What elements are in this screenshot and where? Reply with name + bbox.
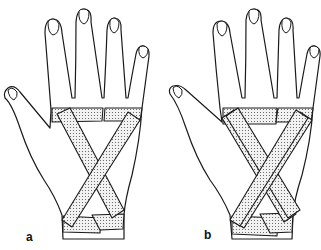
hand-b (169, 9, 320, 239)
hand-a (4, 9, 149, 239)
panel-label-b: b (204, 228, 211, 242)
panel-label-a: a (26, 230, 33, 244)
hand-taping-illustration (0, 0, 321, 250)
